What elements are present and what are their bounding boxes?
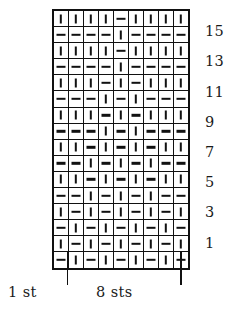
knit-cell — [99, 252, 114, 268]
knit-cell — [99, 139, 114, 155]
knit-cell — [174, 11, 189, 27]
purl-symbol-icon — [102, 114, 111, 116]
purl-symbol-icon — [132, 210, 141, 212]
knit-cell — [159, 43, 174, 59]
knit-cell — [99, 123, 114, 139]
purl-cell — [99, 236, 114, 252]
chart-row — [54, 91, 189, 107]
knit-cell — [144, 107, 159, 123]
knit-symbol-icon — [150, 159, 152, 168]
knit-cell — [84, 107, 99, 123]
knit-symbol-icon — [180, 46, 182, 55]
purl-cell — [84, 171, 99, 187]
purl-cell — [114, 220, 129, 236]
row-number-label: 5 — [205, 175, 235, 190]
purl-symbol-icon — [147, 227, 156, 229]
knit-cell — [174, 171, 189, 187]
purl-symbol-icon — [132, 114, 141, 116]
knit-cell — [129, 220, 144, 236]
knit-cell — [99, 11, 114, 27]
knit-symbol-icon — [120, 239, 122, 248]
purl-cell — [129, 204, 144, 220]
knit-symbol-icon — [105, 127, 107, 136]
chart-row — [54, 43, 189, 59]
purl-cell — [144, 171, 159, 187]
purl-symbol-icon — [147, 130, 156, 132]
knit-cell — [54, 139, 69, 155]
knit-cell — [174, 43, 189, 59]
knit-symbol-icon — [75, 46, 77, 55]
knit-symbol-icon — [180, 207, 182, 216]
knit-symbol-icon — [60, 143, 62, 152]
purl-symbol-icon — [132, 82, 141, 84]
knit-symbol-icon — [150, 14, 152, 23]
edge-stitch-caption: 1 st — [8, 285, 37, 300]
purl-cell — [129, 236, 144, 252]
purl-symbol-icon — [57, 33, 66, 35]
knit-cell — [54, 11, 69, 27]
repeat-caption: 8 sts — [96, 285, 133, 300]
chart-row — [54, 188, 189, 204]
knit-cell — [159, 107, 174, 123]
knit-cell — [99, 91, 114, 107]
purl-symbol-icon — [102, 66, 111, 68]
purl-symbol-icon — [177, 98, 186, 100]
knit-cell — [99, 43, 114, 59]
knit-symbol-icon — [90, 207, 92, 216]
purl-cell — [69, 188, 84, 204]
knit-symbol-icon — [120, 30, 122, 39]
chart-row — [54, 123, 189, 139]
knit-cell — [114, 188, 129, 204]
purl-cell — [159, 27, 174, 43]
knit-cell — [129, 139, 144, 155]
knit-symbol-icon — [165, 223, 167, 232]
knit-symbol-icon — [120, 111, 122, 120]
purl-cell — [84, 59, 99, 75]
purl-cell — [159, 188, 174, 204]
knit-symbol-icon — [180, 175, 182, 184]
purl-symbol-icon — [102, 243, 111, 245]
knit-cell — [144, 236, 159, 252]
purl-cell — [84, 220, 99, 236]
knit-cell — [129, 252, 144, 268]
purl-symbol-icon — [72, 162, 81, 164]
purl-cell — [129, 75, 144, 91]
stitch-grid — [52, 9, 190, 270]
knit-symbol-icon — [90, 14, 92, 23]
knit-cell — [69, 11, 84, 27]
purl-cell — [114, 252, 129, 268]
knit-cell — [144, 43, 159, 59]
knit-cell — [159, 139, 174, 155]
chart-row — [54, 236, 189, 252]
knit-symbol-icon — [90, 46, 92, 55]
knit-symbol-icon — [75, 111, 77, 120]
knit-symbol-icon — [75, 223, 77, 232]
purl-cell — [99, 75, 114, 91]
purl-cell — [129, 59, 144, 75]
purl-cell — [144, 27, 159, 43]
purl-cell — [99, 27, 114, 43]
purl-cell — [129, 155, 144, 171]
knit-cell — [54, 75, 69, 91]
purl-symbol-icon — [147, 178, 156, 180]
purl-symbol-icon — [162, 210, 171, 212]
knit-symbol-icon — [135, 143, 137, 152]
knit-symbol-icon — [180, 111, 182, 120]
purl-cell — [84, 252, 99, 268]
knit-cell — [69, 171, 84, 187]
knit-cell — [174, 236, 189, 252]
knit-symbol-icon — [105, 46, 107, 55]
purl-symbol-icon — [102, 210, 111, 212]
purl-symbol-icon — [72, 98, 81, 100]
knit-symbol-icon — [135, 95, 137, 104]
knit-symbol-icon — [120, 159, 122, 168]
knit-symbol-icon — [165, 143, 167, 152]
chart-row — [54, 155, 189, 171]
knit-cell — [84, 236, 99, 252]
purl-cell — [144, 59, 159, 75]
knit-symbol-icon — [150, 46, 152, 55]
knit-symbol-icon — [165, 78, 167, 87]
row-number-axis: 15131197531 — [205, 9, 239, 251]
purl-cell — [129, 27, 144, 43]
purl-cell — [69, 59, 84, 75]
